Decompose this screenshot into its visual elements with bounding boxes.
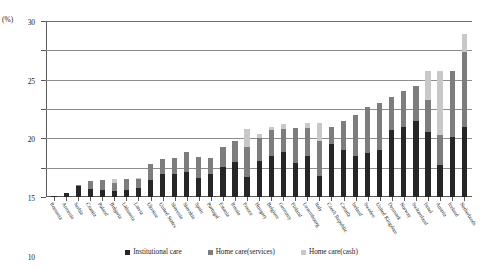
- bar-segment-institutional-care: [425, 132, 430, 197]
- bar-segment-institutional-care: [389, 130, 394, 197]
- bar-slot: [157, 21, 169, 197]
- x-label-bulgaria: Bulgaria: [109, 201, 114, 204]
- x-label-slot: Luxembourg: [301, 201, 313, 247]
- bar-segment-institutional-care: [196, 178, 201, 197]
- x-label-slot: Slovakia: [181, 201, 193, 247]
- bar-segment-institutional-care: [184, 172, 189, 197]
- x-label-slot: Spain: [193, 201, 205, 247]
- x-label-serbia: Serbia: [73, 201, 78, 204]
- legend-label-institutional: Institutional care: [133, 248, 182, 256]
- bar-segment-home-care-services: [232, 141, 237, 162]
- bar-segment-home-care-services: [196, 157, 201, 178]
- y-tick-label-20: 20: [28, 135, 35, 144]
- bar-segment-home-care-cash: [437, 71, 442, 136]
- bar-slot: [217, 21, 229, 197]
- x-label-slot: Belgium: [265, 201, 277, 247]
- x-label-hungary: Hungary: [254, 201, 259, 204]
- bar-norway: [401, 91, 406, 197]
- bar-segment-home-care-services: [112, 183, 117, 191]
- x-label-united-kingdom: United Kingdom: [375, 201, 380, 204]
- x-label-spain: Spain: [194, 201, 199, 204]
- x-label-slot: Hungary: [253, 201, 265, 247]
- bar-slot: [422, 21, 434, 197]
- bar-slot: [120, 21, 132, 197]
- bar-segment-home-care-services: [100, 180, 105, 190]
- bar-segment-home-care-services: [341, 121, 346, 150]
- bar-slot: [48, 21, 60, 197]
- bar-segment-home-care-services: [269, 130, 274, 156]
- bar-slot: [60, 21, 72, 197]
- bar-slot: [169, 21, 181, 197]
- bar-segment-institutional-care: [100, 190, 105, 197]
- bar-slot: [229, 21, 241, 197]
- bar-segment-institutional-care: [293, 163, 298, 197]
- bar-slot: [96, 21, 108, 197]
- x-label-slot: Slovenia: [169, 201, 181, 247]
- bar-segment-home-care-services: [329, 127, 334, 145]
- legend-label-cash: Home care(cash): [309, 248, 358, 256]
- bar-poland: [100, 180, 105, 197]
- bar-luxembourg: [305, 123, 310, 197]
- bar-segment-institutional-care: [281, 152, 286, 197]
- x-label-portugal: Portugal: [206, 201, 211, 204]
- bar-slovakia: [184, 152, 189, 197]
- bar-slot: [398, 21, 410, 197]
- bar-spain: [196, 157, 201, 197]
- bar-portugal: [208, 158, 213, 197]
- bar-bulgaria: [112, 179, 117, 197]
- bar-slot: [84, 21, 96, 197]
- x-label-norway: Norway: [399, 201, 404, 204]
- bar-segment-home-care-services: [401, 91, 406, 126]
- x-label-austria: Austria: [435, 201, 440, 204]
- bar-segment-home-care-services: [305, 128, 310, 156]
- x-label-slot: Canada: [338, 201, 350, 247]
- bar-denmark: [389, 97, 394, 197]
- bar-segment-institutional-care: [269, 156, 274, 197]
- bar-series-layer: [46, 21, 472, 197]
- bar-segment-institutional-care: [450, 137, 455, 197]
- legend-label-services: Home care(services): [216, 248, 275, 256]
- bar-segment-home-care-services: [184, 152, 189, 172]
- bar-slot: [253, 21, 265, 197]
- bar-segment-institutional-care: [329, 144, 334, 197]
- x-label-slot: France: [241, 201, 253, 247]
- bar-slot: [446, 21, 458, 197]
- bar-segment-home-care-services: [220, 147, 225, 167]
- bar-slot: [362, 21, 374, 197]
- bar-slot: [313, 21, 325, 197]
- bar-segment-institutional-care: [257, 161, 262, 197]
- bar-slot: [193, 21, 205, 197]
- bar-segment-home-care-cash: [317, 123, 322, 141]
- y-axis-unit-label: (%): [2, 15, 13, 24]
- bar-slot: [145, 21, 157, 197]
- x-label-italy: Italy: [314, 201, 319, 204]
- legend-swatch-icon-institutional: [125, 250, 130, 255]
- bar-israel: [425, 71, 430, 197]
- x-label-canada: Canada: [338, 201, 343, 204]
- bar-segment-home-care-services: [172, 158, 177, 173]
- x-label-slot: Norway: [398, 201, 410, 247]
- bar-slot: [338, 21, 350, 197]
- bar-france: [244, 129, 249, 197]
- bar-segment-home-care-services: [437, 135, 442, 164]
- bar-segment-home-care-services: [462, 52, 467, 127]
- bar-slot: [289, 21, 301, 197]
- bar-segment-institutional-care: [244, 177, 249, 197]
- bar-segment-home-care-services: [389, 97, 394, 129]
- bar-segment-home-care-services: [257, 138, 262, 161]
- x-label-poland: Poland: [97, 201, 102, 204]
- bar-united-kingdom: [377, 103, 382, 197]
- bar-italy: [317, 123, 322, 197]
- bar-austria: [437, 71, 442, 197]
- bar-netherlands: [462, 34, 467, 197]
- x-label-slot: Latvia: [132, 201, 144, 247]
- x-label-slovakia: Slovakia: [182, 201, 187, 204]
- bar-segment-institutional-care: [353, 156, 358, 197]
- x-label-netherlands: Netherlands: [459, 201, 464, 204]
- bar-segment-institutional-care: [172, 174, 177, 197]
- x-label-slot: Israel: [422, 201, 434, 247]
- bar-segment-home-care-services: [377, 103, 382, 150]
- legend-swatch-icon-cash: [301, 250, 306, 255]
- bar-segment-home-care-cash: [462, 34, 467, 52]
- bar-slovenia: [172, 158, 177, 197]
